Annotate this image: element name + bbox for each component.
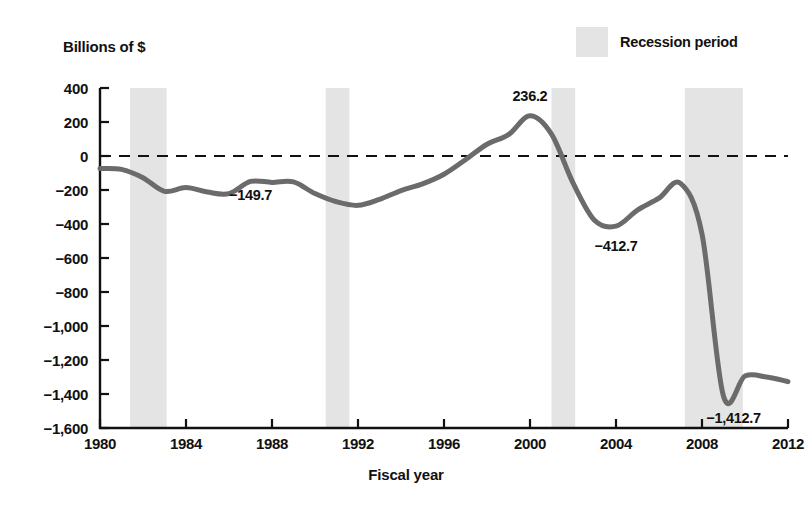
recession-period-swatch (576, 27, 608, 57)
y-tick-label: −200 (0, 182, 88, 199)
x-tick-label: 1996 (428, 435, 460, 452)
y-tick-label: 0 (0, 148, 88, 165)
x-tick-label: 2012 (772, 435, 804, 452)
x-tick-label: 1988 (256, 435, 288, 452)
y-tick-label: −1,400 (0, 386, 88, 403)
y-tick-label: 400 (0, 80, 88, 97)
data-point-label: −412.7 (595, 238, 638, 254)
y-tick-label: −1,600 (0, 420, 88, 437)
x-tick-label: 2004 (600, 435, 632, 452)
x-tick-label: 2000 (514, 435, 546, 452)
y-tick-label: −1,200 (0, 352, 88, 369)
recession-band (685, 88, 743, 428)
recession-band (326, 88, 350, 428)
x-tick-label: 1984 (170, 435, 202, 452)
x-tick-label: 2008 (686, 435, 718, 452)
y-tick-label: −1,000 (0, 318, 88, 335)
legend: Recession period (576, 27, 738, 57)
x-axis-title: Fiscal year (0, 466, 812, 483)
data-point-label: 236.2 (513, 88, 548, 104)
x-tick-label: 1980 (84, 435, 116, 452)
x-tick-label: 1992 (342, 435, 374, 452)
data-point-label: −149.7 (229, 187, 272, 203)
chart-container: Billions of $ Recession period 4002000−2… (0, 0, 812, 506)
y-tick-label: −600 (0, 250, 88, 267)
y-tick-label: −800 (0, 284, 88, 301)
recession-bands (130, 88, 743, 428)
plot-area (0, 0, 812, 506)
y-tick-label: 200 (0, 114, 88, 131)
y-axis-title: Billions of $ (63, 38, 145, 55)
recession-band (130, 88, 167, 428)
legend-label: Recession period (620, 34, 738, 50)
data-point-label: −1,412.7 (706, 410, 760, 426)
y-tick-label: −400 (0, 216, 88, 233)
